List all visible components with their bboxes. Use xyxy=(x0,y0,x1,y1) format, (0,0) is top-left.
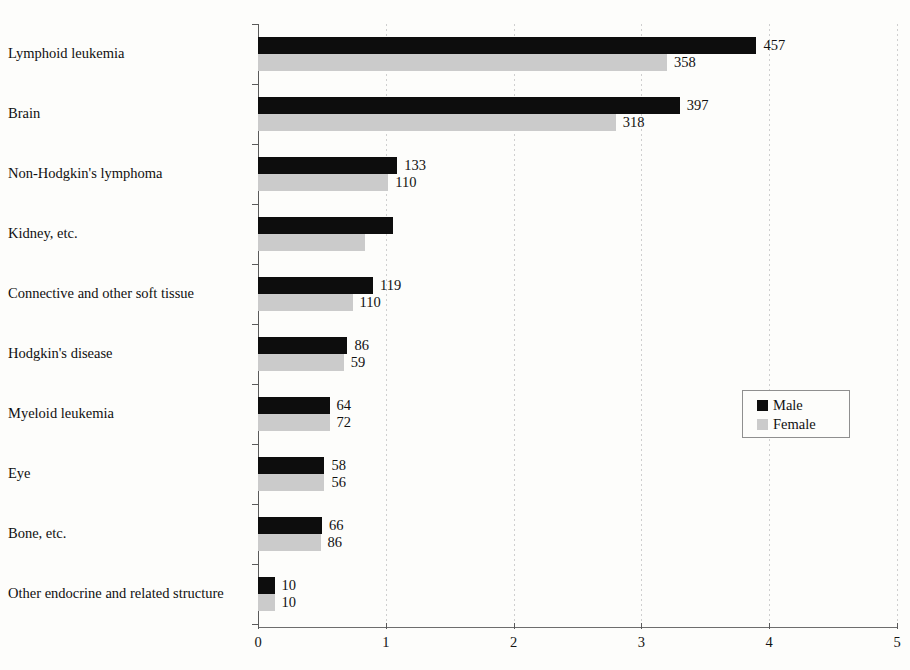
bar-male xyxy=(258,97,680,114)
bar-value-label: 86 xyxy=(321,534,343,551)
bar-female xyxy=(258,294,353,311)
x-axis-tick-label: 2 xyxy=(494,634,534,651)
category-label: Brain xyxy=(8,105,252,122)
y-axis-tick xyxy=(252,624,258,625)
bar-female xyxy=(258,234,365,251)
category-label-text: Connective and other soft tissue xyxy=(8,285,194,302)
legend-item-male: Male xyxy=(757,396,849,415)
category-label: Myeloid leukemia xyxy=(8,405,252,422)
bar-value-label: 56 xyxy=(324,474,346,491)
category-label-text: Other endocrine and related structure xyxy=(8,585,224,602)
bar-male xyxy=(258,217,393,234)
legend-item-female: Female xyxy=(757,415,849,434)
gridline xyxy=(769,24,770,624)
bar-female xyxy=(258,174,388,191)
y-axis-tick xyxy=(252,324,258,325)
bar-male xyxy=(258,397,330,414)
bar-female xyxy=(258,114,616,131)
x-axis-tick-label: 0 xyxy=(238,634,278,651)
bar-value-label: 397 xyxy=(680,97,709,114)
x-axis-tick xyxy=(258,623,259,629)
x-axis-tick-label: 5 xyxy=(877,634,910,651)
category-label: Hodgkin's disease xyxy=(8,345,252,362)
bar-female xyxy=(258,54,667,71)
bar-value-label: 59 xyxy=(344,354,366,371)
bar-male xyxy=(258,577,275,594)
gridline xyxy=(897,24,898,624)
y-axis-tick xyxy=(252,144,258,145)
bar-chart: 012345 Lymphoid leukemiaBrainNon-Hodgkin… xyxy=(0,0,910,670)
bar-value-label: 119 xyxy=(373,277,401,294)
x-axis-tick xyxy=(641,623,642,629)
bar-value-label: 358 xyxy=(667,54,696,71)
category-label-text: Lymphoid leukemia xyxy=(8,45,124,62)
bar-male xyxy=(258,337,347,354)
legend-label-male: Male xyxy=(773,398,803,413)
bar-value-label: 110 xyxy=(353,294,381,311)
bar-male xyxy=(258,457,324,474)
bar-male xyxy=(258,157,397,174)
x-axis-tick xyxy=(514,623,515,629)
category-label-text: Non-Hodgkin's lymphoma xyxy=(8,165,162,182)
chart-legend: Male Female xyxy=(742,390,850,438)
x-axis-tick xyxy=(386,623,387,629)
category-label: Other endocrine and related structure xyxy=(8,585,252,602)
category-label: Kidney, etc. xyxy=(8,225,252,242)
bar-value-label: 110 xyxy=(388,174,416,191)
category-label-text: Hodgkin's disease xyxy=(8,345,113,362)
bar-male xyxy=(258,277,373,294)
category-label-text: Eye xyxy=(8,465,31,482)
bar-value-label: 64 xyxy=(330,397,352,414)
category-label-text: Brain xyxy=(8,105,40,122)
category-label-text: Bone, etc. xyxy=(8,525,66,542)
bar-female xyxy=(258,354,344,371)
bar-male xyxy=(258,37,756,54)
bar-female xyxy=(258,474,324,491)
bar-value-label: 86 xyxy=(347,337,369,354)
bar-value-label: 318 xyxy=(616,114,645,131)
x-axis-tick-label: 4 xyxy=(749,634,789,651)
bar-value-label: 10 xyxy=(275,594,297,611)
y-axis-tick xyxy=(252,444,258,445)
category-label: Non-Hodgkin's lymphoma xyxy=(8,165,252,182)
x-axis-tick-label: 3 xyxy=(621,634,661,651)
category-label: Connective and other soft tissue xyxy=(8,285,252,302)
bar-value-label: 133 xyxy=(397,157,426,174)
category-label-text: Kidney, etc. xyxy=(8,225,78,242)
bar-value-label: 10 xyxy=(275,577,297,594)
y-axis-tick xyxy=(252,204,258,205)
bar-value-label: 58 xyxy=(324,457,346,474)
x-axis-tick xyxy=(769,623,770,629)
bar-value-label: 457 xyxy=(756,37,785,54)
category-label: Eye xyxy=(8,465,252,482)
y-axis-tick xyxy=(252,24,258,25)
category-label-text: Myeloid leukemia xyxy=(8,405,114,422)
x-axis-line xyxy=(258,627,898,628)
y-axis-tick xyxy=(252,384,258,385)
y-axis-tick xyxy=(252,264,258,265)
y-axis-tick xyxy=(252,84,258,85)
legend-swatch-female-icon xyxy=(757,419,768,430)
y-axis-tick xyxy=(252,504,258,505)
bar-female xyxy=(258,414,330,431)
x-axis-tick-label: 1 xyxy=(366,634,406,651)
bar-female xyxy=(258,534,321,551)
x-axis-tick xyxy=(897,623,898,629)
bar-male xyxy=(258,517,322,534)
category-label: Bone, etc. xyxy=(8,525,252,542)
y-axis-tick xyxy=(252,564,258,565)
legend-label-female: Female xyxy=(773,417,816,432)
legend-swatch-male-icon xyxy=(757,400,768,411)
bar-value-label: 72 xyxy=(330,414,352,431)
bar-female xyxy=(258,594,275,611)
bar-value-label: 66 xyxy=(322,517,344,534)
category-label: Lymphoid leukemia xyxy=(8,45,252,62)
